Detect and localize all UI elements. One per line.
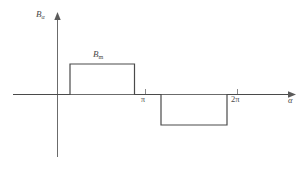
x-axis-label-symbol: α (288, 95, 292, 105)
y-axis-arrowhead (54, 12, 60, 20)
figure-container: Bα Bm π 2π α (0, 0, 303, 170)
x-tick-label-pi: π (141, 96, 145, 104)
x-axis-label: α (288, 96, 292, 105)
y-axis-label-subscript: α (42, 14, 45, 20)
x-tick-label-two-pi: 2π (231, 95, 240, 104)
amplitude-label-subscript: m (99, 54, 104, 60)
waveform-plot-svg (0, 0, 303, 170)
y-axis-label-symbol: B (36, 9, 42, 19)
y-axis-label: Bα (36, 10, 45, 19)
amplitude-label-symbol: B (93, 49, 99, 59)
amplitude-label: Bm (93, 50, 103, 59)
waveform-trace (13, 64, 288, 125)
